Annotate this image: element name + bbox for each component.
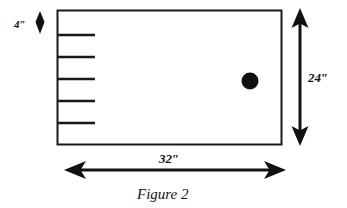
hole-circle xyxy=(242,73,259,90)
width-dimension-label: 32″ xyxy=(158,151,179,166)
figure-container: 4″ 24″ 32″ Figure 2 xyxy=(0,0,347,208)
height-dimension-label: 24″ xyxy=(307,70,328,85)
figure-caption: Figure 2 xyxy=(136,186,189,202)
figure-2-diagram: 4″ 24″ 32″ Figure 2 xyxy=(0,0,347,208)
spacing-dimension-label: 4″ xyxy=(13,18,26,30)
